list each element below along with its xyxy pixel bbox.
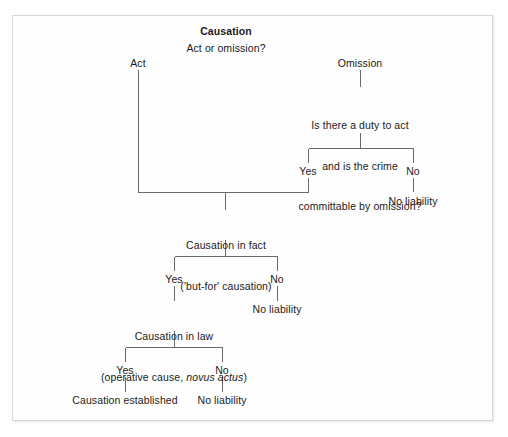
causation-in-fact-line-2: ('but-for' causation): [180, 280, 271, 294]
flowchart-page: Causation Act or omission? Act Omission …: [0, 0, 508, 437]
label-duty-yes: Yes: [299, 165, 316, 179]
duty-question-line-2: and is the crime: [298, 160, 421, 174]
law-line2-prefix: (operative cause,: [101, 371, 186, 383]
label-law-no: No: [215, 364, 229, 378]
node-causation-established: Causation established: [72, 394, 177, 408]
node-law-no-liability: No liability: [197, 394, 246, 408]
node-duty-question: Is there a duty to act and is the crime …: [298, 92, 421, 241]
node-fact-no-liability: No liability: [252, 303, 301, 317]
node-act: Act: [130, 57, 145, 71]
label-fact-yes: Yes: [165, 273, 182, 287]
label-fact-no: No: [270, 273, 284, 287]
diagram-title: Causation: [200, 25, 252, 39]
root-question: Act or omission?: [186, 42, 265, 56]
node-omission: Omission: [338, 57, 383, 71]
label-law-yes: Yes: [116, 364, 133, 378]
node-duty-no-liability: No liability: [388, 195, 437, 209]
causation-in-law-line-1: Causation in law: [101, 330, 247, 344]
duty-question-line-1: Is there a duty to act: [298, 119, 421, 133]
law-line2-suffix: ): [243, 371, 247, 383]
label-duty-no: No: [406, 165, 420, 179]
causation-in-fact-line-1: Causation in fact: [180, 239, 271, 253]
